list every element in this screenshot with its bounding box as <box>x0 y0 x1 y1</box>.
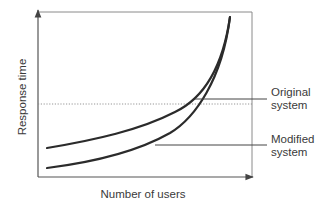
modified-system-label: Modified system <box>271 133 314 159</box>
original-system-label: Original system <box>271 86 311 112</box>
modified-label-line1: Modified <box>271 133 314 146</box>
original-label-line1: Original <box>271 86 311 99</box>
original-system-curve <box>47 17 230 148</box>
modified-label-line2: system <box>271 146 314 159</box>
x-axis-label: Number of users <box>100 188 185 201</box>
y-axis-label: Response time <box>16 59 29 136</box>
original-label-line2: system <box>271 99 311 112</box>
